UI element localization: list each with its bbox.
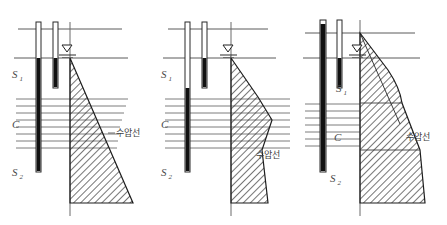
layer-label-s2-sub: 2 (169, 173, 173, 181)
panel-left: S 1 C S 2 수압선 (12, 22, 140, 216)
panel-right: S 1 C S 2 수압선 (303, 20, 430, 216)
layer-label-s1: S (12, 68, 18, 80)
pore-pressure-figure: S 1 C S 2 수압선 (0, 0, 447, 225)
layer-label-s2-sub: 2 (338, 179, 342, 187)
piezometer-tube-1 (320, 20, 326, 172)
layer-label-s2: S (330, 172, 336, 184)
layer-label-c: C (12, 118, 20, 130)
pressure-line-label: 수압선 (256, 149, 280, 160)
layer-label-s2: S (161, 166, 167, 178)
piezometer-tube-2 (337, 20, 342, 88)
pressure-line-label: 수압선 (116, 127, 140, 138)
piezometer-tube-1 (185, 22, 190, 172)
water-table-symbol (220, 45, 237, 58)
layer-label-s1-sub: 1 (344, 89, 348, 97)
layer-label-s1: S (161, 68, 167, 80)
layer-label-s1-sub: 1 (169, 75, 173, 83)
layer-label-s1-sub: 1 (20, 75, 24, 83)
figure-canvas: S 1 C S 2 수압선 (0, 0, 447, 225)
water-table-symbol (59, 45, 76, 58)
layer-label-s2-sub: 2 (20, 173, 24, 181)
panel-middle: S 1 C S 2 수압선 (161, 22, 290, 216)
piezometer-tube-2 (53, 22, 58, 88)
clay-layer-hatching (305, 104, 360, 146)
piezometer-tube-2 (202, 22, 207, 88)
layer-label-s2: S (12, 166, 18, 178)
layer-label-c: C (161, 118, 169, 130)
layer-label-c: C (334, 131, 342, 143)
pressure-line-label: 수압선 (406, 131, 430, 142)
piezometer-tube-1 (36, 22, 41, 172)
layer-label-s1: S (336, 82, 342, 94)
